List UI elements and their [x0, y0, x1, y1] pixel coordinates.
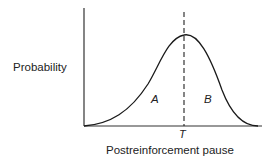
- probability-curve: [84, 35, 258, 126]
- region-label-a: A: [151, 93, 159, 105]
- probability-chart: Probability T Postreinforcement pause A …: [0, 0, 274, 165]
- region-label-b: B: [204, 93, 212, 105]
- chart-canvas: [0, 0, 274, 165]
- x-tick-label-t: T: [179, 128, 186, 140]
- x-axis-label: Postreinforcement pause: [106, 144, 256, 156]
- y-axis-label: Probability: [13, 61, 67, 73]
